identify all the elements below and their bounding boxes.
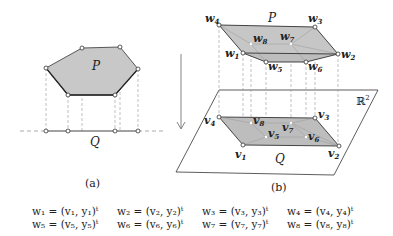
label-w4: w4 — [205, 12, 219, 26]
equations: w₁ = (v₁, y₁)ᵗ w₂ = (v₂, y₂)ᵗ w₃ = (v₃, … — [32, 205, 372, 231]
figure-canvas: P Q (a) ℝ2 — [0, 0, 393, 236]
equations-row-1: w₁ = (v₁, y₁)ᵗ w₂ = (v₂, y₂)ᵗ w₃ = (v₃, … — [32, 205, 372, 218]
panel-a: P Q (a) — [20, 45, 165, 190]
label-v3: v3 — [318, 108, 329, 122]
label-p-a: P — [91, 59, 101, 73]
label-w3: w3 — [308, 12, 322, 26]
label-q-a: Q — [90, 135, 100, 149]
label-v1: v1 — [235, 148, 246, 162]
caption-a: (a) — [85, 177, 100, 190]
equation-w7: w₇ = (v₇, y₇)ᵗ — [202, 218, 287, 231]
equation-w4: w₄ = (v₄, y₄)ᵗ — [287, 205, 372, 218]
label-v8: v8 — [253, 114, 264, 128]
equation-w8: w₈ = (v₈, y₈)ᵗ — [287, 218, 372, 231]
equation-w1: w₁ = (v₁, y₁)ᵗ — [32, 205, 117, 218]
equation-w3: w₃ = (v₃, y₃)ᵗ — [202, 205, 287, 218]
arrow-down-icon — [177, 54, 185, 129]
equation-w6: w₆ = (v₆, y₆)ᵗ — [117, 218, 202, 231]
label-w1: w1 — [225, 47, 239, 61]
label-w6: w6 — [308, 60, 322, 74]
labels-v: v4 v3 v2 v1 v8 v7 v5 v6 — [204, 108, 339, 162]
label-w2: w2 — [341, 48, 355, 62]
label-v4: v4 — [204, 114, 215, 128]
equation-w5: w₅ = (v₅, y₅)ᵗ — [32, 218, 117, 231]
label-q-b: Q — [275, 152, 285, 166]
equations-row-2: w₅ = (v₅, y₅)ᵗ w₆ = (v₆, y₆)ᵗ w₇ = (v₇, … — [32, 218, 372, 231]
label-v2: v2 — [328, 147, 339, 161]
label-r2: ℝ2 — [356, 94, 370, 108]
label-p-b: P — [267, 11, 277, 25]
panel-b: ℝ2 — [176, 11, 378, 194]
caption-b: (b) — [271, 181, 287, 194]
equation-w2: w₂ = (v₂, y₂)ᵗ — [117, 205, 202, 218]
